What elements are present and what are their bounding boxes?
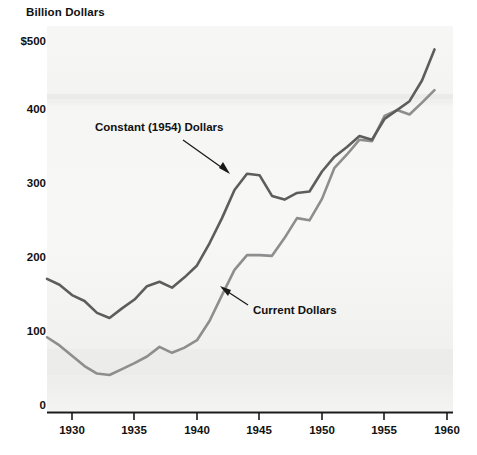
annotation-arrow-constant: [183, 140, 230, 174]
chart-page: Billion Dollars $500 400 300 200 100 0 1…: [0, 0, 477, 455]
chart-plot-area: [0, 0, 477, 455]
series-line-current-dollars: [47, 49, 435, 318]
annotation-arrow-current: [220, 286, 248, 305]
